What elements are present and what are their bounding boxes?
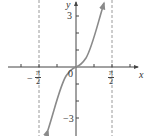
- neg-sign: −: [27, 74, 33, 84]
- x-tick-label-pi-over-2: π 2: [108, 69, 114, 86]
- y-tick-label-neg3: −3: [63, 114, 74, 124]
- y-axis-label: y: [66, 0, 70, 10]
- x-tick-label-neg-pi-over-2: π 2: [35, 69, 41, 86]
- x-axis-label: x: [139, 70, 143, 80]
- origin-label: 0: [68, 69, 73, 79]
- y-tick-label-3: 3: [67, 11, 72, 21]
